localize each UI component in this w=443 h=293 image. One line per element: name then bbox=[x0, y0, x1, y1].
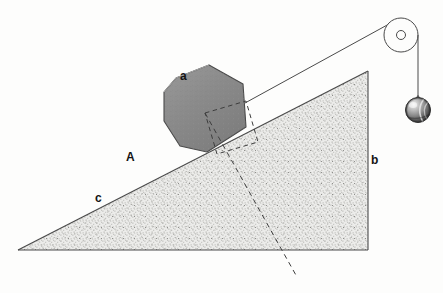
label-plane-A: A bbox=[126, 151, 135, 163]
pulley-wheel-icon bbox=[384, 18, 418, 52]
figure-canvas bbox=[0, 0, 443, 293]
sphere-weight-rim-shadow bbox=[406, 98, 431, 123]
label-vertical-b: b bbox=[371, 154, 378, 166]
inclined-plane-figure: A a b c bbox=[0, 0, 443, 293]
pulley-axle bbox=[397, 31, 406, 40]
label-hypotenuse-c: c bbox=[95, 192, 102, 204]
label-block-a: a bbox=[180, 70, 187, 82]
block-a bbox=[164, 65, 246, 152]
